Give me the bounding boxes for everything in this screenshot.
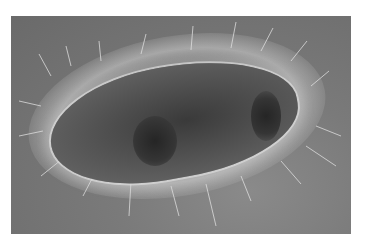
micrograph-photo: [11, 16, 351, 234]
macronucleus: [133, 116, 177, 166]
dark-region: [251, 91, 281, 141]
